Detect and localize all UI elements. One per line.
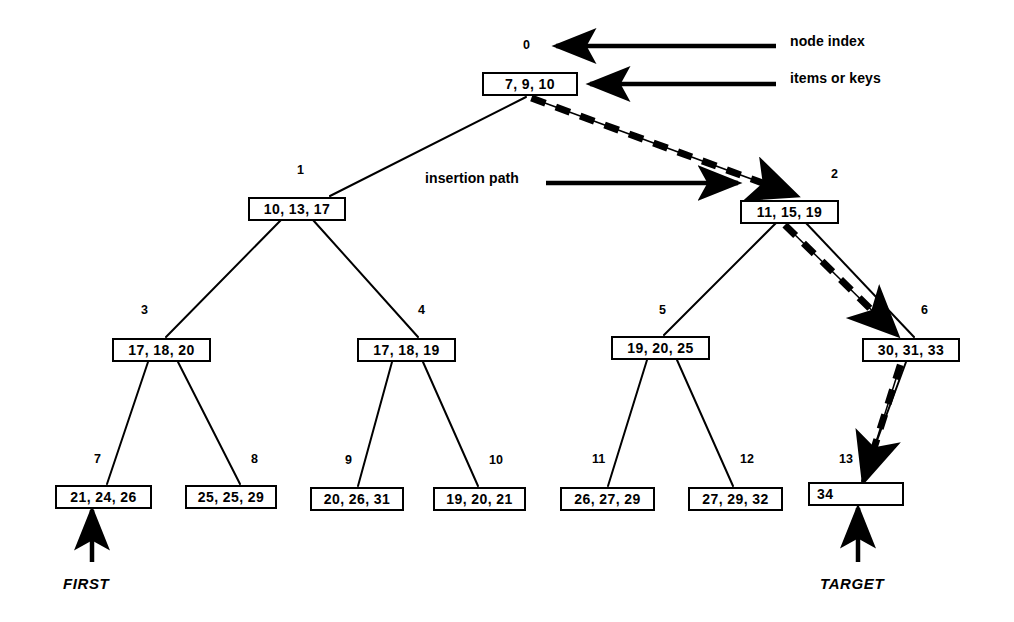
- node-index-label-12: 12: [740, 452, 754, 466]
- edge-4-to-10: [423, 362, 478, 486]
- node-index-label-0: 0: [523, 38, 530, 52]
- tree-node-9: 20, 26, 31: [310, 487, 404, 511]
- node-index-label-11: 11: [592, 452, 605, 466]
- tree-node-2: 11, 15, 19: [740, 200, 839, 224]
- edge-3-to-7: [107, 362, 148, 484]
- node-index-label-8: 8: [251, 452, 258, 466]
- tree-node-8: 25, 25, 29: [185, 485, 277, 509]
- tree-node-7: 21, 24, 26: [55, 485, 152, 509]
- tree-node-4: 17, 18, 19: [357, 338, 456, 362]
- edge-4-to-9: [358, 362, 392, 486]
- edge-2-to-6: [806, 223, 914, 337]
- edge-3-to-8: [178, 362, 240, 484]
- tree-edges: [107, 97, 914, 486]
- tree-node-6: 30, 31, 33: [862, 338, 960, 362]
- tree-node-5: 19, 20, 25: [611, 336, 710, 360]
- insertion-path-callout: insertion path: [425, 170, 519, 186]
- node-index-label-2: 2: [831, 167, 838, 181]
- node-index-label-6: 6: [921, 303, 928, 317]
- insertion-path-edges: [531, 98, 900, 480]
- tree-node-11: 26, 27, 29: [560, 487, 655, 511]
- node-index-label-7: 7: [94, 452, 101, 466]
- edge-1-to-4: [313, 220, 418, 337]
- node-index-label-9: 9: [345, 453, 352, 467]
- first-label: FIRST: [63, 575, 109, 592]
- edge-1-to-3: [166, 220, 281, 337]
- tree-node-1: 10, 13, 17: [248, 197, 346, 221]
- node-index-label-1: 1: [297, 163, 304, 177]
- node-index-label-3: 3: [141, 303, 148, 317]
- tree-node-10: 19, 20, 21: [433, 487, 526, 511]
- node-index-label-5: 5: [659, 303, 666, 317]
- btree-insertion-diagram: 7, 9, 1010, 13, 1711, 15, 1917, 18, 2017…: [0, 0, 1014, 622]
- node-index-label-4: 4: [418, 303, 425, 317]
- tree-node-13: 34: [808, 482, 904, 506]
- tree-node-0: 7, 9, 10: [482, 72, 578, 96]
- node-index-callout: node index: [790, 33, 865, 49]
- tree-node-3: 17, 18, 20: [112, 338, 211, 362]
- edge-2-to-5: [664, 223, 776, 335]
- node-index-label-10: 10: [489, 453, 503, 467]
- edge-5-to-11: [608, 360, 647, 486]
- target-label: TARGET: [820, 575, 884, 592]
- tree-node-12: 27, 29, 32: [688, 487, 783, 511]
- node-index-label-13: 13: [839, 452, 853, 466]
- items-callout: items or keys: [790, 70, 881, 86]
- edge-5-to-12: [677, 360, 733, 486]
